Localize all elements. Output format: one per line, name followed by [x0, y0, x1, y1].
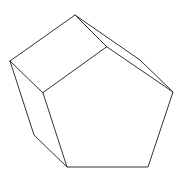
lateral-edge-top [75, 15, 107, 47]
back-face-edges [10, 15, 173, 92]
back-face-lower-edges [10, 61, 67, 167]
front-pentagon-face [43, 47, 173, 167]
pentagonal-prism-diagram [0, 0, 186, 183]
